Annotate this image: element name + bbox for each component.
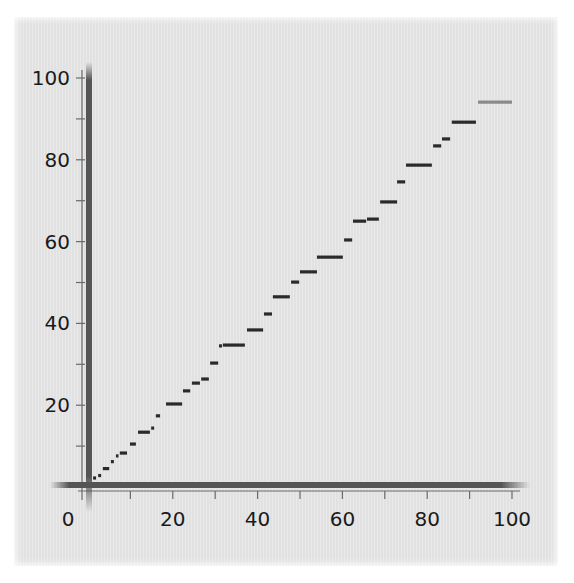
x-tick-label: 40 <box>245 507 270 531</box>
x-axis-thick-bar <box>50 482 530 488</box>
step-segment <box>192 382 200 385</box>
x-tick-label: 0 <box>62 507 75 531</box>
step-segment <box>433 144 441 147</box>
step-segment <box>151 427 154 430</box>
x-tick-label: 20 <box>160 507 185 531</box>
step-segment <box>273 295 290 298</box>
step-segment <box>201 377 209 380</box>
step-segment <box>300 270 317 273</box>
step-segment <box>138 431 150 434</box>
y-tick-label: 80 <box>45 148 70 172</box>
y-axis-thick-bar <box>86 62 92 512</box>
step-segment <box>247 328 263 331</box>
step-segment <box>367 218 379 221</box>
y-tick-label: 60 <box>45 230 70 254</box>
step-segment <box>156 414 160 417</box>
x-tick-label: 100 <box>493 507 531 531</box>
step-segment <box>264 312 272 315</box>
step-segment <box>219 344 222 347</box>
step-segment <box>478 101 512 104</box>
step-segment <box>223 343 245 346</box>
step-segment <box>183 389 190 392</box>
step-segment <box>130 442 136 445</box>
y-tick-label: 100 <box>32 66 70 90</box>
step-segments <box>93 101 512 480</box>
step-segment <box>210 361 218 364</box>
chart-plot: 02040608010020406080100 <box>0 0 574 583</box>
step-segment <box>442 137 450 140</box>
step-segment <box>344 238 352 241</box>
step-segment <box>166 402 182 405</box>
step-segment <box>103 467 109 470</box>
step-segment <box>120 451 127 454</box>
step-segment <box>291 280 299 283</box>
y-tick-label: 20 <box>45 393 70 417</box>
step-segment <box>98 474 101 477</box>
step-segment <box>380 200 397 203</box>
step-segment <box>317 256 343 259</box>
y-tick-label: 40 <box>45 311 70 335</box>
tick-labels: 02040608010020406080100 <box>32 66 531 531</box>
step-segment <box>353 220 366 223</box>
step-segment <box>93 476 96 479</box>
x-tick-label: 80 <box>414 507 439 531</box>
axis-ticks <box>76 78 512 499</box>
step-segment <box>406 164 432 167</box>
step-segment <box>397 180 405 183</box>
step-segment <box>111 460 114 463</box>
step-segment <box>116 454 119 457</box>
step-segment <box>452 121 476 124</box>
x-tick-label: 60 <box>330 507 355 531</box>
